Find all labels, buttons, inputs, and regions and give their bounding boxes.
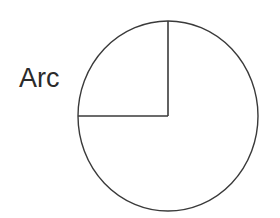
arc-diagram-canvas: Arc bbox=[0, 0, 280, 218]
arc-label: Arc bbox=[19, 64, 60, 92]
arc-diagram-graphic bbox=[0, 0, 280, 218]
